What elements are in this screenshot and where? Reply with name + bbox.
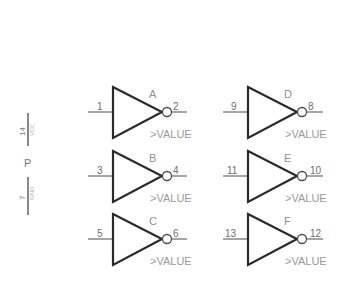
gate-name: F: [284, 215, 291, 227]
inverter-gate-c[interactable]: 5 6 C >VALUE: [88, 214, 192, 267]
value-label: >VALUE: [150, 192, 192, 204]
input-pin-number: 11: [227, 165, 238, 176]
gnd-pin-number: 7: [18, 195, 27, 200]
vcc-pin-number: 14: [18, 127, 27, 136]
gate-name: B: [149, 152, 156, 164]
inversion-bubble-icon: [163, 235, 172, 244]
input-pin-number: 9: [231, 101, 237, 112]
input-pin-number: 5: [97, 228, 103, 239]
value-label: >VALUE: [150, 255, 192, 267]
inversion-bubble-icon: [298, 235, 307, 244]
output-pin-number: 6: [173, 228, 179, 239]
gnd-net-label: GND: [29, 186, 35, 200]
inversion-bubble-icon: [163, 108, 172, 117]
output-pin-number: 4: [173, 165, 179, 176]
gate-name: C: [149, 215, 157, 227]
inverter-gate-d[interactable]: 9 8 D >VALUE: [223, 87, 327, 140]
inverter-gate-a[interactable]: 1 2 A >VALUE: [88, 87, 192, 140]
output-pin-number: 10: [310, 165, 322, 176]
output-pin-number: 8: [308, 101, 314, 112]
output-pin-number: 2: [173, 101, 179, 112]
gate-name: E: [284, 152, 291, 164]
power-unit-name: P: [24, 157, 31, 169]
input-pin-number: 13: [225, 228, 237, 239]
inversion-bubble-icon: [298, 108, 307, 117]
power-unit[interactable]: 14 VCC P 7 GND: [18, 113, 35, 215]
value-label: >VALUE: [285, 255, 327, 267]
inverter-gate-b[interactable]: 3 4 B >VALUE: [88, 151, 192, 204]
input-pin-number: 3: [97, 165, 103, 176]
gate-name: A: [149, 88, 157, 100]
gate-name: D: [284, 88, 292, 100]
inverter-gate-f[interactable]: 13 12 F >VALUE: [223, 214, 327, 267]
output-pin-number: 12: [310, 228, 322, 239]
value-label: >VALUE: [150, 128, 192, 140]
input-pin-number: 1: [97, 101, 103, 112]
inversion-bubble-icon: [163, 172, 172, 181]
value-label: >VALUE: [285, 192, 327, 204]
value-label: >VALUE: [285, 128, 327, 140]
schematic-canvas: 14 VCC P 7 GND 1 2 A >VALUE 3 4 B >VALUE…: [0, 0, 351, 285]
inversion-bubble-icon: [298, 172, 307, 181]
inverter-gate-e[interactable]: 11 10 E >VALUE: [223, 151, 327, 204]
vcc-net-label: VCC: [29, 123, 35, 136]
